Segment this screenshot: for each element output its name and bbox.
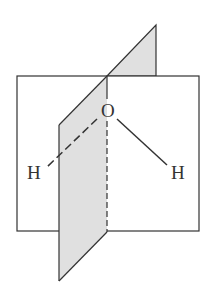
mirror-plane-upper [107, 25, 156, 76]
hydrogen-left-label: H [27, 162, 41, 183]
water-symmetry-diagram: O H H [0, 0, 210, 293]
hydrogen-right-label: H [171, 162, 185, 183]
oxygen-label: O [101, 100, 115, 121]
